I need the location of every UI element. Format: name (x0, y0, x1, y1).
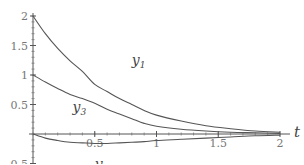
line-chart: -0.50.511.520.511.52t y1y3y2 (0, 0, 304, 164)
y-tick-label: 0.5 (11, 99, 29, 112)
label-y2: y2 (94, 156, 109, 165)
x-tick-label: 1 (153, 137, 160, 150)
label-y3: y3 (72, 99, 87, 117)
y-tick-label: 2 (21, 10, 28, 23)
curve-y3 (33, 75, 280, 133)
x-axis-title: t (294, 123, 301, 141)
curve-labels: y1y3y2 (72, 52, 146, 164)
x-tick-label: 2 (277, 137, 284, 150)
x-tick-label: 1.5 (210, 137, 228, 150)
curve-y1 (33, 16, 280, 132)
y-tick-label: 1.5 (11, 40, 29, 53)
label-y1: y1 (131, 52, 146, 70)
y-tick-label: -0.5 (7, 158, 28, 165)
y-tick-label: 1 (21, 69, 28, 82)
curves (33, 16, 280, 144)
